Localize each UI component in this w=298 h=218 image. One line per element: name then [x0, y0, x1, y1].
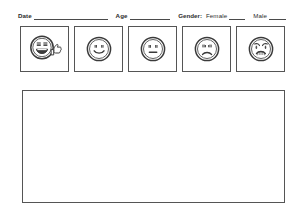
crying-face-icon	[245, 33, 277, 65]
date-label: Date	[18, 12, 32, 20]
gender-option-female-label: Female	[206, 12, 227, 20]
gender-option-male-input[interactable]	[269, 12, 286, 20]
face-scale-option-4[interactable]	[182, 26, 231, 72]
age-label: Age	[116, 12, 128, 20]
form-header: Date Age Gender: Female Male	[18, 6, 286, 20]
face-scale-row	[20, 26, 285, 72]
neutral-face-icon	[137, 33, 169, 65]
age-input[interactable]	[130, 12, 170, 20]
laughing-face-thumbs-up-icon	[27, 33, 63, 65]
gender-option-female-input[interactable]	[229, 12, 245, 20]
date-field[interactable]: Date	[18, 12, 108, 20]
face-scale-option-5[interactable]	[236, 26, 285, 72]
gender-label: Gender:	[178, 12, 202, 20]
smiling-face-icon	[83, 33, 115, 65]
gender-option-male-label: Male	[253, 12, 267, 20]
age-field[interactable]: Age	[116, 12, 170, 20]
response-drawing-area[interactable]	[22, 90, 285, 203]
date-input[interactable]	[34, 12, 108, 20]
face-scale-option-1[interactable]	[20, 26, 69, 72]
face-scale-option-3[interactable]	[128, 26, 177, 72]
gender-field: Gender: Female Male	[178, 12, 286, 20]
frowning-face-icon	[191, 33, 223, 65]
face-scale-option-2[interactable]	[74, 26, 123, 72]
